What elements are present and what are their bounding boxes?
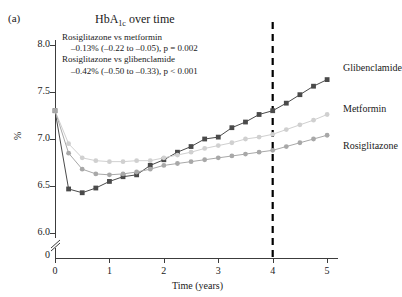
data-point (121, 159, 126, 164)
data-point (134, 158, 139, 163)
data-point (216, 135, 221, 140)
data-point (202, 157, 207, 162)
data-point (270, 148, 275, 153)
data-point (311, 118, 316, 123)
data-point (107, 172, 112, 177)
data-point (66, 141, 71, 146)
data-point (298, 140, 303, 145)
data-point (175, 161, 180, 166)
data-point (66, 151, 71, 156)
data-point (66, 187, 71, 192)
data-point (270, 108, 275, 113)
data-point (93, 171, 98, 176)
data-point (325, 77, 330, 82)
data-point (325, 112, 330, 117)
series-glibenclamide (53, 77, 330, 195)
data-point (202, 146, 207, 151)
data-point (216, 155, 221, 160)
data-point (298, 92, 303, 97)
legend-label-glibenclamide: Glibenclamide (343, 62, 402, 73)
legend-label-rosiglitazone: Rosiglitazone (343, 140, 398, 151)
data-point (93, 186, 98, 191)
data-point (270, 132, 275, 137)
data-point (298, 122, 303, 127)
data-point (121, 171, 126, 176)
data-point (243, 120, 248, 125)
data-point (229, 154, 234, 159)
data-point (175, 153, 180, 158)
data-point (257, 112, 262, 117)
data-point (189, 159, 194, 164)
data-point (229, 140, 234, 145)
data-point (243, 137, 248, 142)
data-point (107, 179, 112, 184)
data-point (80, 167, 85, 172)
data-point (216, 143, 221, 148)
data-point (325, 133, 330, 138)
data-point (148, 167, 153, 172)
data-point (311, 84, 316, 89)
data-point (148, 158, 153, 163)
data-point (53, 108, 58, 113)
data-point (189, 150, 194, 155)
data-point (80, 190, 85, 195)
data-point (80, 155, 85, 160)
data-point (107, 159, 112, 164)
data-point (134, 170, 139, 175)
data-point (93, 158, 98, 163)
data-point (161, 155, 166, 160)
data-point (284, 101, 289, 106)
series-line (55, 111, 327, 175)
data-point (202, 137, 207, 142)
data-point (257, 135, 262, 140)
data-point (311, 137, 316, 142)
data-point (284, 127, 289, 132)
data-point (189, 144, 194, 149)
data-point (243, 152, 248, 157)
data-point (257, 150, 262, 155)
data-point (161, 163, 166, 168)
data-point (229, 125, 234, 130)
legend-label-metformin: Metformin (343, 103, 386, 114)
series-rosiglitazone (53, 108, 330, 177)
data-point (284, 144, 289, 149)
series-metformin (53, 108, 330, 164)
